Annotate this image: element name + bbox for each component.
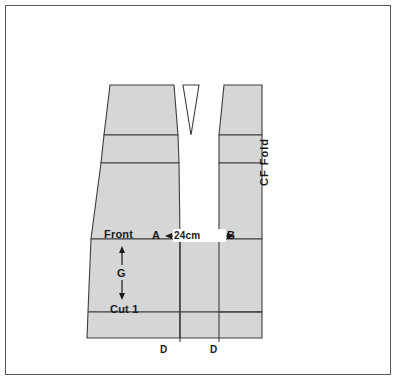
left-panel-yoke-band (101, 135, 179, 163)
label-grainline-g: G (117, 267, 126, 279)
left-panel-upper-block (104, 85, 178, 135)
center-lower-block (180, 239, 262, 312)
pattern-layout-drawing (0, 0, 398, 382)
label-cf-fold: CF Fold (258, 138, 270, 186)
right-panel-mid-block (219, 163, 262, 239)
dart-wedge (183, 85, 199, 135)
label-notch-d-right: D (210, 344, 217, 355)
center-hem-band (180, 312, 262, 338)
left-panel-hem-band (87, 312, 180, 338)
label-cut-instruction: Cut 1 (110, 303, 139, 315)
label-point-a: A (152, 229, 160, 241)
label-dimension-24cm: 24cm (174, 230, 200, 241)
pattern-diagram-page: Front A 24cm B G Cut 1 D D CF Fold (0, 0, 398, 382)
left-panel-lower-block (88, 239, 180, 312)
right-panel-yoke-band (219, 135, 262, 163)
label-point-b: B (227, 229, 235, 241)
label-front: Front (104, 228, 133, 240)
right-panel-upper-block (219, 85, 262, 135)
label-notch-d-left: D (160, 344, 167, 355)
